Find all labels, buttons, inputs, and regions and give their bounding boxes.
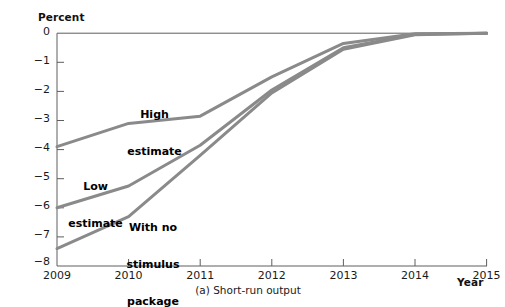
y-tick-label-minus-8: −8 <box>24 256 50 268</box>
y-tick-label-minus-1: −1 <box>24 55 50 67</box>
x-tick-label-2015: 2015 <box>465 270 505 282</box>
y-tick-label-minus-4: −4 <box>24 142 50 154</box>
y-axis-title: Percent <box>38 12 85 24</box>
x-tick-label-2009: 2009 <box>35 270 79 282</box>
y-tick-label-0: 0 <box>24 26 50 38</box>
x-tick-label-2014: 2014 <box>393 270 437 282</box>
high-estimate-label-line-1: High <box>117 109 192 121</box>
low-estimate-label-line-1: Low <box>58 181 133 193</box>
y-tick-label-minus-2: −2 <box>24 84 50 96</box>
no-stimulus-label-line-2: stimulus <box>113 259 193 271</box>
figure-caption: (a) Short-run output <box>148 285 348 297</box>
y-tick-label-minus-6: −6 <box>24 200 50 212</box>
no-stimulus-label-line-1: With no <box>113 222 193 234</box>
no-stimulus-label-line-3: package <box>113 296 193 307</box>
x-tick-label-2012: 2012 <box>250 270 294 282</box>
x-tick-label-2013: 2013 <box>321 270 365 282</box>
y-tick-label-minus-7: −7 <box>24 229 50 241</box>
y-tick-label-minus-5: −5 <box>24 171 50 183</box>
y-tick-label-minus-3: −3 <box>24 113 50 125</box>
